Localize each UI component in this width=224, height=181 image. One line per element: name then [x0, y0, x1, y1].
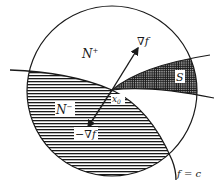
gradient-label: ∇f: [137, 35, 151, 48]
s-region: [112, 55, 214, 98]
s-lower-boundary: [112, 89, 214, 98]
level-set-label: f = c: [176, 168, 201, 179]
diagram-canvas: N+ N− ∇f −∇f S x0 f = c: [0, 0, 224, 181]
n-plus-label: N+: [81, 47, 99, 61]
s-label: S: [176, 71, 184, 84]
neg-gradient-label: −∇f: [75, 128, 98, 141]
